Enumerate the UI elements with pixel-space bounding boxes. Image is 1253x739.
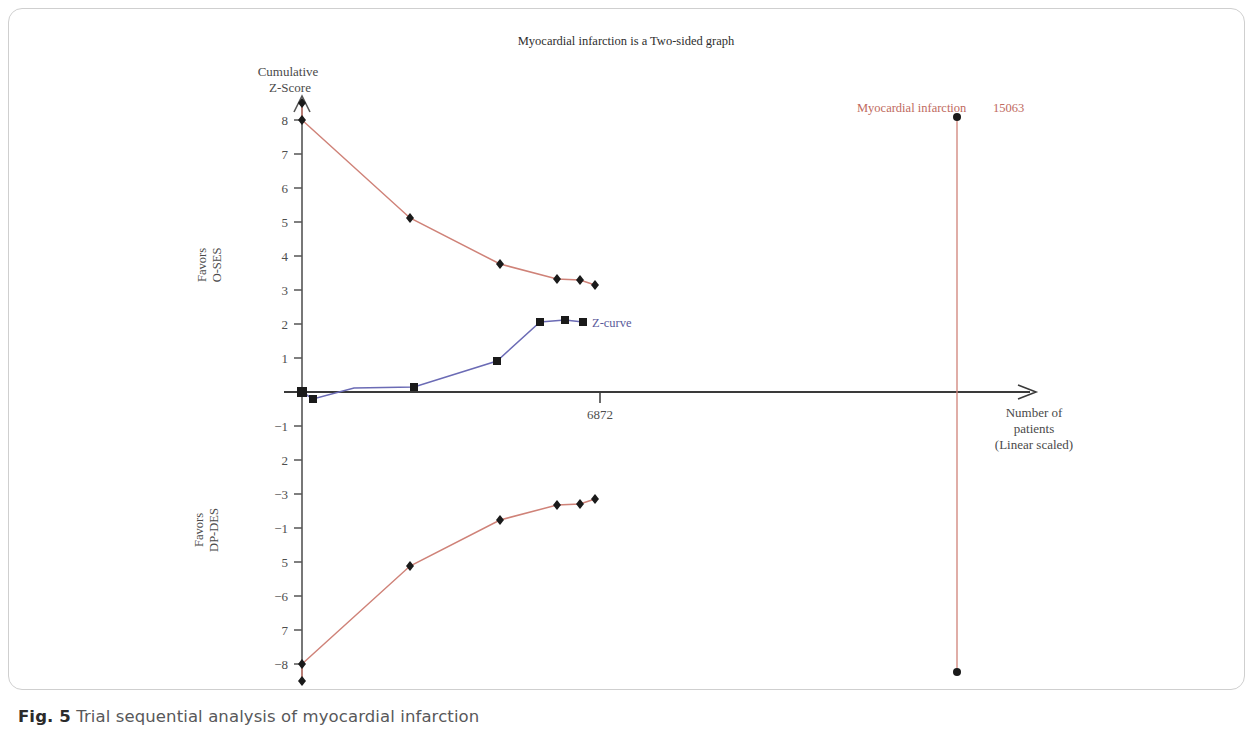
figure-caption-text: Trial sequential analysis of myocardial … [76, 707, 479, 726]
series-upper-monitoring-boundary [298, 98, 599, 290]
y-ticks-lower: −1 2 −3 −1 5 −6 7 −8 [274, 419, 302, 672]
svg-text:−8: −8 [274, 657, 288, 672]
required-information-size-annotation: Myocardial infarction 15063 [857, 101, 1024, 115]
y-ticks-upper: 8 7 6 5 4 3 2 1 [282, 113, 303, 366]
svg-text:5: 5 [282, 215, 289, 230]
y-tick-neg3: −3 [274, 487, 302, 502]
favors-dp-des-line2: DP-DES [207, 508, 221, 552]
annotation-label: Myocardial infarction [857, 101, 967, 115]
svg-text:2: 2 [282, 317, 289, 332]
y-tick-neg5: 5 [282, 555, 303, 570]
side-label-favors-dp-des: Favors DP-DES [192, 508, 221, 552]
side-label-favors-o-ses: Favors O-SES [195, 248, 224, 283]
svg-text:3: 3 [282, 283, 289, 298]
svg-text:7: 7 [282, 147, 289, 162]
y-tick-6: 6 [282, 181, 303, 196]
figure-caption-bar: Fig. 5 Trial sequential analysis of myoc… [8, 694, 1245, 739]
svg-text:6: 6 [282, 181, 289, 196]
svg-text:−6: −6 [274, 589, 288, 604]
data-markers-upper [298, 98, 599, 290]
y-tick-7: 7 [282, 147, 303, 162]
y-tick-3: 3 [282, 283, 303, 298]
figure-number: Fig. 5 [18, 707, 71, 726]
svg-text:4: 4 [282, 249, 289, 264]
x-axis-title-line2: patients [1014, 421, 1054, 436]
svg-text:−1: −1 [274, 419, 288, 434]
x-tick-6872: 6872 [587, 392, 613, 422]
svg-text:5: 5 [282, 555, 289, 570]
y-tick-4: 4 [282, 249, 303, 264]
series-z-curve: Z-curve [297, 316, 632, 403]
favors-o-ses-line2: O-SES [210, 248, 224, 283]
y-axis-title: Cumulative Z-Score [258, 64, 319, 95]
data-markers-zcurve [297, 316, 587, 403]
x-tick-label: 6872 [587, 407, 613, 422]
x-axis-title-line1: Number of [1006, 405, 1063, 420]
y-axis-title-line1: Cumulative [258, 64, 319, 79]
x-axis-title-line3: (Linear scaled) [995, 437, 1073, 452]
svg-text:7: 7 [282, 623, 289, 638]
y-tick-neg1: −1 [274, 419, 302, 434]
trial-sequential-analysis-chart: Myocardial infarction is a Two-sided gra… [0, 0, 1253, 695]
annotation-value: 15063 [993, 101, 1024, 115]
z-curve-legend-label: Z-curve [592, 316, 632, 330]
y-tick-neg7: 7 [282, 623, 303, 638]
svg-text:−1: −1 [274, 521, 288, 536]
y-tick-neg4: −1 [274, 521, 302, 536]
data-markers-lower [298, 494, 599, 686]
chart-title: Myocardial infarction is a Two-sided gra… [518, 34, 735, 48]
required-information-size-line [953, 113, 961, 676]
y-tick-1: 1 [282, 351, 303, 366]
series-lower-monitoring-boundary [298, 494, 599, 686]
figure-caption: Fig. 5 Trial sequential analysis of myoc… [8, 707, 479, 726]
y-tick-neg6: −6 [274, 589, 302, 604]
svg-text:−3: −3 [274, 487, 288, 502]
x-axis-title: Number of patients (Linear scaled) [995, 405, 1073, 452]
favors-dp-des-line1: Favors [192, 513, 206, 547]
svg-text:2: 2 [282, 453, 289, 468]
y-tick-2: 2 [282, 317, 303, 332]
svg-text:1: 1 [282, 351, 289, 366]
y-tick-neg8: −8 [274, 657, 302, 672]
svg-text:8: 8 [282, 113, 289, 128]
y-axis-title-line2: Z-Score [269, 80, 311, 95]
y-tick-neg2: 2 [282, 453, 303, 468]
y-tick-5: 5 [282, 215, 303, 230]
favors-o-ses-line1: Favors [195, 248, 209, 282]
